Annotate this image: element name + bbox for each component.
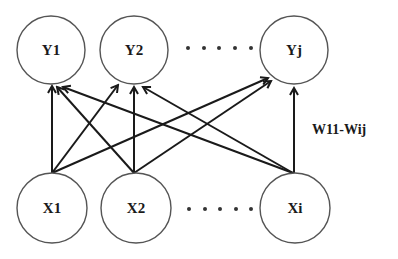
weight-label: W11-Wij	[312, 122, 366, 137]
output-node-y1: Y1	[17, 16, 85, 84]
output-layer: Y1Y2Yj	[17, 16, 328, 84]
node-label: Y2	[125, 42, 143, 58]
node-label: Xi	[288, 200, 303, 216]
output-node-y2: Y2	[100, 16, 168, 84]
ellipsis-dot	[249, 46, 253, 50]
node-label: X2	[127, 200, 145, 216]
ellipsis-dot	[218, 207, 222, 211]
ellipsis-dot	[186, 46, 190, 50]
node-label: Yj	[286, 42, 302, 58]
ellipsis-dot	[233, 46, 237, 50]
edge-xi-y1	[63, 87, 293, 173]
weight-connections	[52, 78, 294, 173]
input-layer: X1X2Xi	[17, 173, 330, 243]
ellipsis-dot	[249, 207, 253, 211]
node-label: X1	[43, 200, 61, 216]
input-node-xi: Xi	[260, 173, 330, 243]
ellipsis-dot	[203, 207, 207, 211]
input-ellipsis	[187, 207, 253, 211]
ellipsis-dot	[187, 207, 191, 211]
neural-network-diagram: Y1Y2Yj X1X2Xi W11-Wij	[0, 0, 398, 259]
input-node-x1: X1	[17, 173, 87, 243]
ellipsis-dot	[234, 207, 238, 211]
edge-x1-y2	[52, 85, 118, 173]
output-ellipsis	[186, 46, 253, 50]
edge-x1-yj	[52, 78, 268, 173]
node-label: Y1	[42, 42, 60, 58]
output-node-yj: Yj	[260, 16, 328, 84]
ellipsis-dot	[217, 46, 221, 50]
ellipsis-dot	[202, 46, 206, 50]
input-node-x2: X2	[101, 173, 171, 243]
